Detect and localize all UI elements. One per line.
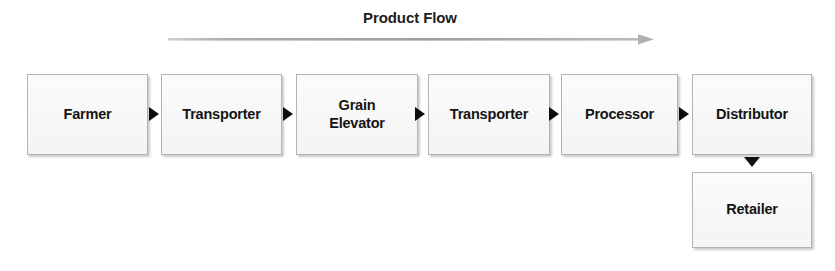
right-triangle-arrow-icon-farmer-to-transporter-1 — [149, 107, 159, 121]
node-grain-elevator[interactable]: Grain Elevator — [296, 74, 418, 155]
product-flow-arrow — [168, 30, 658, 50]
page-title: Product Flow — [310, 9, 510, 26]
node-grain-elevator-line1: Grain — [339, 97, 376, 113]
node-farmer-label: Farmer — [61, 106, 115, 124]
right-triangle-arrow-icon-transporter-1-to-grain-elevator — [283, 107, 293, 121]
long-right-arrow-icon — [168, 30, 658, 50]
node-transporter-1-line1: Transporter — [182, 106, 260, 122]
node-transporter-1[interactable]: Transporter — [161, 74, 282, 155]
right-triangle-arrow-icon-processor-to-distributor — [679, 107, 689, 121]
node-processor-label: Processor — [582, 106, 657, 124]
right-triangle-arrow-icon-grain-elevator-to-transporter-2 — [415, 107, 425, 121]
product-flow-diagram: Product Flow Farmer Transporter — [0, 0, 835, 271]
right-triangle-arrow-icon-transporter-2-to-processor — [549, 107, 559, 121]
node-transporter-2[interactable]: Transporter — [428, 74, 550, 155]
node-farmer-line1: Farmer — [64, 106, 112, 122]
node-processor[interactable]: Processor — [561, 74, 678, 155]
node-farmer[interactable]: Farmer — [27, 74, 148, 155]
node-transporter-2-line1: Transporter — [450, 106, 528, 122]
node-retailer[interactable]: Retailer — [692, 172, 812, 248]
node-distributor-line1: Distributor — [716, 106, 788, 122]
down-triangle-arrow-icon-distributor-to-retailer — [744, 157, 760, 167]
node-processor-line1: Processor — [585, 106, 654, 122]
node-retailer-label: Retailer — [723, 201, 781, 219]
node-retailer-line1: Retailer — [726, 201, 778, 217]
node-transporter-2-label: Transporter — [447, 106, 531, 124]
node-grain-elevator-label: Grain Elevator — [326, 97, 388, 132]
node-distributor[interactable]: Distributor — [692, 74, 812, 155]
node-distributor-label: Distributor — [713, 106, 791, 124]
node-grain-elevator-line2: Elevator — [329, 115, 385, 133]
node-transporter-1-label: Transporter — [179, 106, 263, 124]
